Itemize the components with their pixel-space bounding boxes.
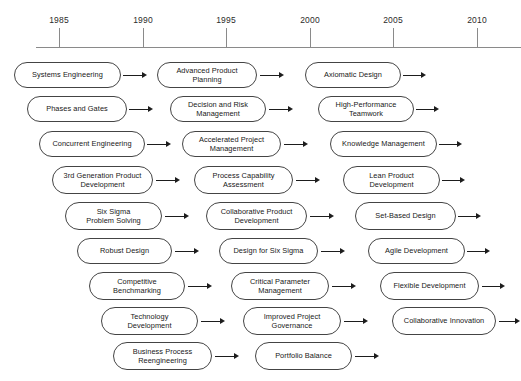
node-label: Business ProcessReengineering — [120, 347, 205, 365]
node-label: Improved ProjectGovernance — [250, 312, 334, 330]
axis-tick — [226, 28, 227, 47]
flow-arrow-icon — [403, 71, 426, 80]
axis-tick — [310, 28, 311, 47]
node-decision-and-risk-management[interactable]: Decision and RiskManagement — [170, 96, 266, 122]
node-axiomatic-design[interactable]: Axiomatic Design — [305, 62, 401, 88]
node-label: Phases and Gates — [34, 104, 120, 113]
axis-tick-label: 2010 — [452, 15, 502, 25]
node-systems-engineering[interactable]: Systems Engineering — [14, 62, 121, 88]
flow-arrow-icon — [467, 247, 490, 256]
node-critical-parameter-management[interactable]: Critical ParameterManagement — [231, 272, 329, 300]
flow-arrow-icon — [499, 317, 520, 326]
node-business-process-reengineering[interactable]: Business ProcessReengineering — [113, 342, 212, 370]
node-label: Lean ProductDevelopment — [350, 171, 433, 189]
node-label: Systems Engineering — [21, 70, 114, 79]
axis-tick-label: 1995 — [201, 15, 251, 25]
node-label: Collaborative Innovation — [399, 316, 489, 325]
node-label: Knowledge Management — [337, 139, 430, 148]
node-label: Critical ParameterManagement — [238, 277, 322, 295]
node-accelerated-project-management[interactable]: Accelerated ProjectManagement — [182, 131, 281, 157]
node-portfolio-balance[interactable]: Portfolio Balance — [255, 342, 352, 370]
node-six-sigma-problem-solving[interactable]: Six SigmaProblem Solving — [65, 202, 162, 230]
node-collaborative-product-development[interactable]: Collaborative ProductDevelopment — [206, 202, 307, 230]
node-high-performance-teamwork[interactable]: High-PerformanceTeamwork — [318, 96, 414, 122]
flow-arrow-icon — [260, 71, 284, 80]
flow-arrow-icon — [296, 176, 320, 185]
timeline-diagram: 198519901995200020052010 Systems Enginee… — [0, 0, 521, 381]
flow-arrow-icon — [147, 140, 171, 149]
node-technology-development[interactable]: TechnologyDevelopment — [101, 307, 198, 335]
flow-arrow-icon — [332, 282, 356, 291]
node-label: Design for Six Sigma — [226, 246, 311, 255]
axis-tick-label: 2005 — [368, 15, 418, 25]
node-label: Portfolio Balance — [262, 351, 345, 360]
flow-arrow-icon — [284, 140, 308, 149]
node-collaborative-innovation[interactable]: Collaborative Innovation — [392, 307, 496, 335]
node-flexible-development[interactable]: Flexible Development — [380, 272, 479, 300]
flow-arrow-icon — [416, 105, 439, 114]
node-knowledge-management[interactable]: Knowledge Management — [330, 131, 437, 157]
node-label: Flexible Development — [387, 281, 472, 290]
node-label: Accelerated ProjectManagement — [189, 135, 274, 153]
axis-tick — [477, 28, 478, 47]
flow-arrow-icon — [215, 352, 239, 361]
node-set-based-design[interactable]: Set-Based Design — [355, 202, 456, 230]
node-label: High-PerformanceTeamwork — [325, 100, 407, 118]
node-design-for-six-sigma[interactable]: Design for Six Sigma — [219, 238, 318, 264]
node-process-capability-assessment[interactable]: Process CapabilityAssessment — [194, 166, 293, 194]
node-lean-product-development[interactable]: Lean ProductDevelopment — [343, 166, 440, 194]
node-concurrent-engineering[interactable]: Concurrent Engineering — [39, 131, 145, 157]
flow-arrow-icon — [439, 140, 462, 149]
node-label: Decision and RiskManagement — [177, 100, 259, 118]
node-3rd-generation-product-development[interactable]: 3rd Generation ProductDevelopment — [52, 166, 153, 194]
node-label: 3rd Generation ProductDevelopment — [59, 171, 146, 189]
node-advanced-product-planning[interactable]: Advanced ProductPlanning — [157, 62, 257, 88]
node-robust-design[interactable]: Robust Design — [77, 238, 172, 264]
node-label: Advanced ProductPlanning — [164, 66, 250, 84]
flow-arrow-icon — [355, 352, 379, 361]
flow-arrow-icon — [458, 212, 481, 221]
axis-tick — [393, 28, 394, 47]
flow-arrow-icon — [344, 317, 368, 326]
flow-arrow-icon — [165, 212, 189, 221]
node-label: Robust Design — [84, 246, 165, 255]
axis-tick — [143, 28, 144, 47]
node-phases-and-gates[interactable]: Phases and Gates — [27, 96, 127, 122]
node-agile-development[interactable]: Agile Development — [368, 238, 465, 264]
flow-arrow-icon — [123, 71, 147, 80]
flow-arrow-icon — [175, 247, 199, 256]
flow-arrow-icon — [269, 105, 293, 114]
node-label: Concurrent Engineering — [46, 139, 138, 148]
node-label: CompetitiveBenchmarking — [96, 277, 178, 295]
node-label: Axiomatic Design — [312, 70, 394, 79]
flow-arrow-icon — [482, 282, 505, 291]
flow-arrow-icon — [188, 282, 212, 291]
flow-arrow-icon — [310, 212, 334, 221]
flow-arrow-icon — [129, 105, 153, 114]
flow-arrow-icon — [156, 176, 180, 185]
node-label: Process CapabilityAssessment — [201, 171, 286, 189]
node-label: TechnologyDevelopment — [108, 312, 191, 330]
node-label: Collaborative ProductDevelopment — [213, 207, 300, 225]
axis-tick-label: 1985 — [34, 15, 84, 25]
flow-arrow-icon — [442, 176, 465, 185]
flow-arrow-icon — [201, 317, 225, 326]
timeline-axis-line — [36, 47, 521, 48]
node-competitive-benchmarking[interactable]: CompetitiveBenchmarking — [89, 272, 185, 300]
axis-tick — [59, 28, 60, 47]
node-label: Agile Development — [375, 246, 458, 255]
node-improved-project-governance[interactable]: Improved ProjectGovernance — [243, 307, 341, 335]
node-label: Six SigmaProblem Solving — [72, 207, 155, 225]
node-label: Set-Based Design — [362, 211, 449, 220]
flow-arrow-icon — [321, 247, 345, 256]
axis-tick-label: 2000 — [285, 15, 335, 25]
axis-tick-label: 1990 — [118, 15, 168, 25]
